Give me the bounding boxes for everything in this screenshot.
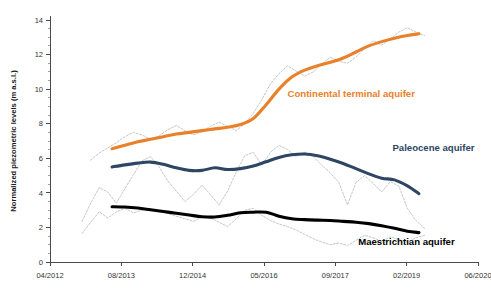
x-tick-label: 08/2013 <box>108 271 135 280</box>
x-tick-label: 09/2017 <box>322 271 349 280</box>
x-tick-label: 06/2020 <box>464 271 491 280</box>
x-tick-label: 04/2012 <box>36 271 63 280</box>
y-tick-label: 4 <box>39 189 43 198</box>
y-axis-tick-labels: 02468101214 <box>35 16 43 267</box>
x-tick-label: 02/2019 <box>393 271 420 280</box>
y-axis-ticks <box>46 20 50 262</box>
y-axis-group: 02468101214 <box>35 16 50 267</box>
y-tick-label: 14 <box>35 16 43 25</box>
x-axis-tick-labels: 04/201208/201312/201405/201609/201702/20… <box>36 271 491 280</box>
x-axis-group: 04/201208/201312/201405/201609/201702/20… <box>36 262 491 280</box>
y-tick-label: 8 <box>39 119 43 128</box>
y-tick-label: 6 <box>39 154 43 163</box>
y-tick-label: 12 <box>35 50 43 59</box>
series-label-2: Paleocene aquifer <box>392 142 474 153</box>
y-tick-label: 0 <box>39 258 43 267</box>
x-tick-label: 12/2014 <box>179 271 206 280</box>
series-label-3: Maestrichtian aquifer <box>358 236 455 247</box>
y-tick-label: 2 <box>39 223 43 232</box>
trend-line-3 <box>112 207 419 233</box>
y-tick-label: 10 <box>35 85 43 94</box>
series-label-1: Continental terminal aquifer <box>288 88 416 99</box>
piezometric-levels-line-chart: 02468101214 04/201208/201312/201405/2016… <box>0 0 491 293</box>
series-annotations-group: Continental terminal aquiferPaleocene aq… <box>288 88 475 247</box>
x-axis-ticks <box>50 262 478 266</box>
raw-data-line-2 <box>82 145 424 228</box>
trend-lines-group <box>112 34 419 233</box>
chart-container: 02468101214 04/201208/201312/201405/2016… <box>0 0 491 293</box>
x-tick-label: 05/2016 <box>250 271 277 280</box>
y-axis-title: Normalized piezometric levels (m a.s.l.) <box>9 70 18 212</box>
